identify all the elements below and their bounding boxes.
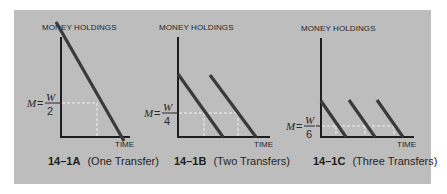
x-axis-label: TIME: [397, 140, 416, 149]
y-axis-label: MONEY HOLDINGS: [42, 23, 117, 32]
x-axis-label: TIME: [115, 140, 134, 149]
average-money-label: M = W 6: [285, 114, 315, 140]
money-holdings-line: [56, 22, 124, 141]
caption: 14–1B (Two Transfers): [174, 151, 290, 168]
svg-text:M: M: [285, 120, 296, 132]
caption: 14–1C (Three Transfers): [313, 151, 437, 168]
average-money-label: M = W 4: [143, 101, 173, 127]
money-holdings-line-2: [349, 100, 375, 137]
svg-text:M: M: [26, 97, 37, 109]
money-holdings-line-1: [321, 101, 346, 137]
svg-text:W: W: [163, 101, 173, 113]
svg-text:M: M: [143, 107, 154, 119]
chart-14-1a: MONEY HOLDINGS TIME M = W 2 14–1A (One T…: [26, 22, 159, 168]
money-holdings-figure: MONEY HOLDINGS TIME M = W 2 14–1A (One T…: [0, 0, 447, 194]
svg-text:=: =: [154, 107, 160, 119]
svg-text:=: =: [296, 120, 302, 132]
caption: 14–1A (One Transfer): [48, 151, 159, 168]
chart-14-1c: MONEY HOLDINGS TIME M = W 6 14–1C (Three…: [285, 24, 437, 168]
chart-14-1b: MONEY HOLDINGS TIME M = W 4 14–1B (Two T…: [143, 23, 290, 168]
svg-text:2: 2: [47, 105, 53, 117]
svg-text:=: =: [37, 97, 43, 109]
average-money-label: M = W 2: [26, 91, 56, 117]
y-axis-label: MONEY HOLDINGS: [159, 23, 234, 32]
y-axis-label: MONEY HOLDINGS: [301, 24, 376, 33]
svg-text:W: W: [305, 114, 315, 126]
x-axis-label: TIME: [254, 140, 273, 149]
svg-text:6: 6: [306, 128, 312, 140]
svg-text:W: W: [46, 91, 56, 103]
svg-text:4: 4: [164, 115, 170, 127]
money-holdings-line-3: [377, 100, 403, 137]
